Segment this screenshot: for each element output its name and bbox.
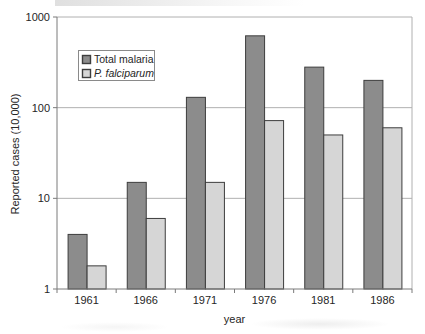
legend-label-p-falciparum: P. falciparum — [94, 67, 154, 79]
bar-total-malaria-1961 — [68, 234, 87, 289]
y-tick-label-1: 1 — [44, 283, 50, 295]
bar-p-falciparum-1976 — [265, 121, 284, 289]
y-tick-label-1000: 1000 — [26, 11, 50, 23]
x-tick-label-1966: 1966 — [134, 294, 158, 306]
bar-chart-figure: 1101001000196119661971197619811986Total … — [0, 0, 425, 334]
legend-label-total-malaria: Total malaria — [94, 53, 154, 65]
legend-swatch-p-falciparum — [83, 70, 91, 78]
bar-p-falciparum-1961 — [87, 266, 106, 289]
bar-total-malaria-1986 — [364, 80, 383, 289]
y-tick-label-10: 10 — [38, 192, 50, 204]
y-axis-title: Reported cases (10,000) — [9, 89, 23, 219]
bar-p-falciparum-1971 — [205, 182, 224, 289]
x-tick-label-1976: 1976 — [252, 294, 276, 306]
bar-total-malaria-1981 — [305, 67, 324, 289]
y-tick-label-100: 100 — [32, 102, 50, 114]
x-tick-label-1986: 1986 — [370, 294, 394, 306]
bar-p-falciparum-1966 — [146, 218, 165, 289]
bar-p-falciparum-1981 — [324, 135, 343, 289]
bar-chart-svg: 1101001000196119661971197619811986Total … — [0, 0, 425, 334]
bar-total-malaria-1966 — [127, 182, 146, 289]
bar-p-falciparum-1986 — [383, 128, 402, 289]
bar-total-malaria-1971 — [186, 97, 205, 289]
legend-swatch-total-malaria — [83, 56, 91, 64]
x-tick-label-1981: 1981 — [311, 294, 335, 306]
bar-total-malaria-1976 — [246, 36, 265, 289]
x-tick-label-1971: 1971 — [193, 294, 217, 306]
x-axis-title: year — [57, 313, 412, 325]
x-tick-label-1961: 1961 — [74, 294, 98, 306]
